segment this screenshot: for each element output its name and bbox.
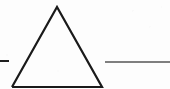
drawing-canvas [0,0,170,89]
figure-svg [0,0,170,89]
canvas-background [0,0,170,89]
